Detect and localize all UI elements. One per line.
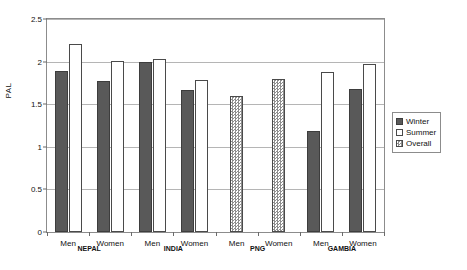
bar-nepal-women-winter (97, 81, 110, 232)
bar-png-men-overall (230, 96, 243, 232)
x-tick-mark (131, 232, 132, 236)
gridline (47, 62, 384, 63)
legend-label-winter: Winter (406, 117, 429, 126)
x-axis-label-india-men: Men (145, 239, 161, 248)
y-tick-label: 1 (38, 142, 42, 151)
y-tick-label: 2 (38, 57, 42, 66)
x-axis-label-png-men: Men (229, 239, 245, 248)
bar-nepal-women-summer (111, 61, 124, 232)
bar-gambia-women-summer (363, 64, 376, 232)
x-axis-label-gambia-men: Men (313, 239, 329, 248)
x-tick-mark (216, 232, 217, 236)
y-tick-label: 0.5 (31, 185, 42, 194)
bar-india-men-winter (139, 62, 152, 232)
bar-india-women-summer (195, 80, 208, 233)
x-tick-mark (342, 232, 343, 236)
x-axis-label-nepal-men: Men (60, 239, 76, 248)
bar-india-men-summer (153, 59, 166, 232)
x-tick-mark (300, 232, 301, 236)
chart-legend: Winter Summer Overall (392, 112, 441, 153)
x-tick-mark (89, 232, 90, 236)
x-tick-mark (173, 232, 174, 236)
y-tick-mark (43, 189, 47, 190)
bar-gambia-men-summer (321, 72, 334, 232)
legend-label-overall: Overall (406, 139, 431, 148)
bar-gambia-women-winter (349, 89, 362, 232)
gridline (47, 19, 384, 20)
bar-nepal-men-winter (55, 71, 68, 232)
x-axis-country-nepal: NEPAL (78, 245, 101, 252)
x-tick-mark (258, 232, 259, 236)
x-axis-country-gambia: GAMBIA (328, 245, 356, 252)
bar-chart: PAL 00.511.522.5MenWomenMenWomenMenWomen… (0, 0, 467, 270)
x-axis-country-india: INDIA (164, 245, 183, 252)
legend-item-overall: Overall (396, 138, 436, 149)
y-tick-label: 1.5 (31, 100, 42, 109)
legend-item-winter: Winter (396, 116, 436, 127)
x-axis-label-india-women: Women (181, 239, 208, 248)
x-axis-country-png: PNG (250, 245, 265, 252)
x-tick-mark (384, 232, 385, 236)
bar-gambia-men-winter (307, 131, 320, 232)
legend-swatch-overall-icon (396, 140, 403, 147)
bar-png-women-overall (272, 79, 285, 232)
y-tick-mark (43, 104, 47, 105)
plot-area: 00.511.522.5MenWomenMenWomenMenWomenMenW… (46, 18, 385, 233)
legend-label-summer: Summer (406, 128, 436, 137)
x-axis-label-png-women: Women (265, 239, 292, 248)
y-tick-mark (43, 61, 47, 62)
bar-nepal-men-summer (69, 44, 82, 232)
y-tick-mark (43, 19, 47, 20)
legend-item-summer: Summer (396, 127, 436, 138)
legend-swatch-winter-icon (396, 118, 403, 125)
y-tick-label: 2.5 (31, 15, 42, 24)
legend-swatch-summer-icon (396, 129, 403, 136)
y-tick-label: 0 (38, 228, 42, 237)
y-axis-title: PAL (4, 61, 13, 121)
y-tick-mark (43, 146, 47, 147)
bar-india-women-winter (181, 90, 194, 232)
x-tick-mark (47, 232, 48, 236)
